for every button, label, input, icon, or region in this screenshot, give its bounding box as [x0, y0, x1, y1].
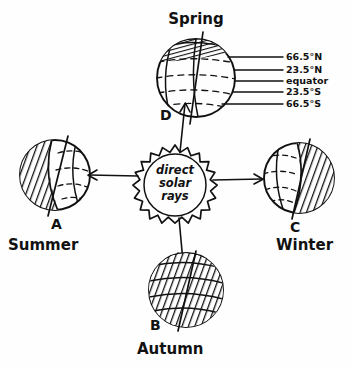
latitude-labels: 66.5°N 23.5°N equator 23.5°S 66.5°S [286, 51, 328, 109]
latitude-label-4: 66.5°S [286, 98, 321, 109]
earth-top-spring: D Spring [152, 10, 240, 124]
sun-label-line3: rays [161, 189, 189, 203]
latitude-label-0: 66.5°N [286, 51, 322, 62]
earth-label-C: C [290, 219, 300, 235]
sun-direct-solar-rays: direct solar rays [133, 145, 217, 223]
earth-bottom-autumn: B Autumn [137, 251, 223, 358]
season-label-spring: Spring [168, 10, 224, 28]
latitude-label-3: 23.5°S [286, 86, 321, 97]
season-label-autumn: Autumn [137, 340, 203, 358]
ray-arrow-left [88, 170, 138, 180]
latitude-label-2: equator [286, 75, 328, 86]
latitude-label-1: 23.5°N [286, 64, 322, 75]
diagram-canvas: direct solar rays [0, 0, 351, 367]
sun-label-line1: direct [156, 163, 194, 177]
seasons-diagram: direct solar rays [0, 0, 351, 367]
earth-left-summer: A Summer [8, 136, 90, 254]
ray-arrow-right [213, 174, 263, 184]
season-label-winter: Winter [276, 236, 334, 254]
sun-label-line2: solar [159, 176, 192, 190]
earth-label-A: A [51, 216, 62, 232]
ray-arrow-up [180, 103, 190, 152]
earth-right-winter: C Winter [263, 139, 342, 254]
season-label-summer: Summer [8, 236, 79, 254]
earth-label-B: B [150, 317, 161, 333]
earth-label-D: D [160, 107, 172, 123]
